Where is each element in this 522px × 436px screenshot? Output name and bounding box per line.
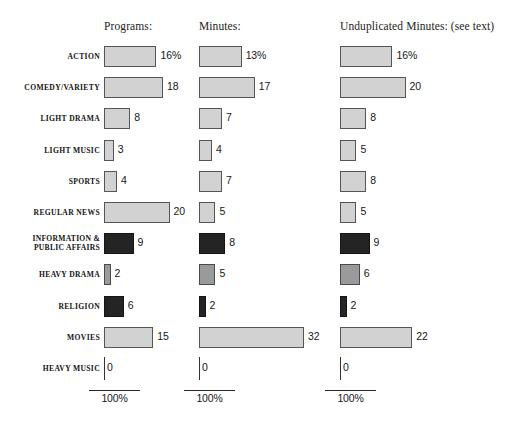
bar [104,264,111,285]
bar [199,296,206,317]
chart-row: ACTION16%13%16% [0,44,522,75]
bar [104,202,170,223]
bar-value-label: 3 [118,143,124,155]
bar-value-label: 5 [219,205,225,217]
category-label: SPORTS [4,177,100,186]
bar [340,327,412,348]
bar-value-label: 0 [202,361,208,373]
chart-row: LIGHT MUSIC345 [0,138,522,169]
bar-value-label: 4 [121,174,127,186]
bar [199,357,200,380]
bar [340,357,341,380]
bar-value-label: 2 [351,299,357,311]
bar [199,171,222,192]
chart-row: REGULAR NEWS2055 [0,200,522,231]
category-label: LIGHT DRAMA [4,114,100,123]
chart-row: LIGHT DRAMA878 [0,106,522,137]
bar [104,296,124,317]
bar-value-label: 20 [174,205,185,217]
bar-value-label: 6 [364,267,370,279]
category-label: MOVIES [4,333,100,342]
bar [340,296,347,317]
bar-value-label: 17 [259,80,270,92]
chart-row: INFORMATION & PUBLIC AFFAIRS989 [0,231,522,262]
chart-row: SPORTS478 [0,169,522,200]
bar [199,264,215,285]
bar-value-label: 8 [229,236,235,248]
bar-value-label: 22 [416,330,427,342]
scale-label: 100% [89,392,140,404]
category-label: HEAVY DRAMA [4,270,100,279]
category-label: RELIGION [4,302,100,311]
bar-value-label: 7 [226,174,232,186]
category-label: REGULAR NEWS [4,208,100,217]
category-label: ACTION [4,52,100,61]
bar [340,108,366,129]
scale-line [89,390,140,391]
bar [104,357,105,380]
chart-row: RELIGION622 [0,294,522,325]
bar [340,171,366,192]
column-header-minutes: Minutes: [199,20,241,32]
bar-value-label: 4 [216,143,222,155]
column-header-unduplicated-minutes: Unduplicated Minutes: (see text) [340,20,494,32]
bar [199,233,225,254]
bar-value-label: 16% [160,49,181,61]
bar [104,77,163,98]
bar-value-label: 5 [360,205,366,217]
bar-value-label: 15 [157,330,168,342]
bar [340,46,392,67]
bar-value-label: 8 [370,111,376,123]
category-label: HEAVY MUSIC [4,364,100,373]
bar-value-label: 13% [246,49,267,61]
scale-legend: 100% [184,390,235,410]
bar [104,171,117,192]
bar [199,327,304,348]
bar-value-label: 9 [374,236,380,248]
scale-label: 100% [325,392,376,404]
bar [340,264,360,285]
bar [104,233,134,254]
bar [199,108,222,129]
category-label: COMEDY/VARIETY [4,83,100,92]
bar-value-label: 8 [370,174,376,186]
bar-value-label: 32 [308,330,319,342]
bar [104,140,114,161]
bar [104,327,153,348]
bar-value-label: 0 [343,361,349,373]
bar-value-label: 18 [167,80,178,92]
scale-label: 100% [184,392,235,404]
bar [199,140,212,161]
category-label: LIGHT MUSIC [4,146,100,155]
bar-value-label: 7 [226,111,232,123]
category-label: INFORMATION & PUBLIC AFFAIRS [4,234,100,252]
chart-row: HEAVY MUSIC000 [0,356,522,387]
bar [104,108,130,129]
chart-row: COMEDY/VARIETY181720 [0,75,522,106]
bar-value-label: 2 [115,267,121,279]
bar-value-label: 8 [134,111,140,123]
bar [199,46,242,67]
bar-value-label: 2 [210,299,216,311]
bar [340,77,406,98]
bar [340,140,356,161]
bar [104,46,156,67]
bar-chart: Programs: Minutes: Unduplicated Minutes:… [0,0,522,436]
bar-value-label: 16% [396,49,417,61]
bar-value-label: 5 [360,143,366,155]
bar [340,233,370,254]
scale-legend: 100% [325,390,376,410]
chart-row: MOVIES153222 [0,325,522,356]
bar [199,77,255,98]
bar [340,202,356,223]
bar-value-label: 6 [128,299,134,311]
scale-line [325,390,376,391]
bar-value-label: 9 [138,236,144,248]
bar [199,202,215,223]
column-header-programs: Programs: [104,20,152,32]
scale-line [184,390,235,391]
chart-row: HEAVY DRAMA256 [0,262,522,293]
bar-value-label: 20 [410,80,421,92]
scale-legend: 100% [89,390,140,410]
bar-value-label: 5 [219,267,225,279]
